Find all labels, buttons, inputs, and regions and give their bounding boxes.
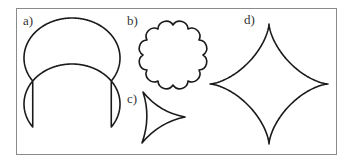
astroid-curve — [210, 24, 328, 144]
curves-canvas — [0, 0, 356, 164]
scalloped-circle-curve — [139, 21, 206, 88]
double-circle-curve — [24, 18, 120, 127]
curves-figure: a) b) c) d) — [0, 0, 356, 164]
deltoid-curve — [142, 92, 185, 143]
